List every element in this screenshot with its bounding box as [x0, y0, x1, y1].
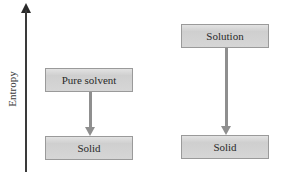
right-solid-box: Solid	[181, 135, 269, 159]
right-arrow-down-icon	[221, 126, 231, 135]
axis-label: Entropy	[5, 68, 19, 110]
left-solid-box: Solid	[45, 136, 133, 160]
pure-solvent-box: Pure solvent	[45, 68, 133, 92]
axis-line	[25, 10, 27, 172]
right-arrow-shaft	[225, 48, 228, 127]
left-arrow-down-icon	[85, 127, 95, 136]
left-arrow-shaft	[89, 92, 92, 128]
solution-box: Solution	[181, 24, 269, 48]
